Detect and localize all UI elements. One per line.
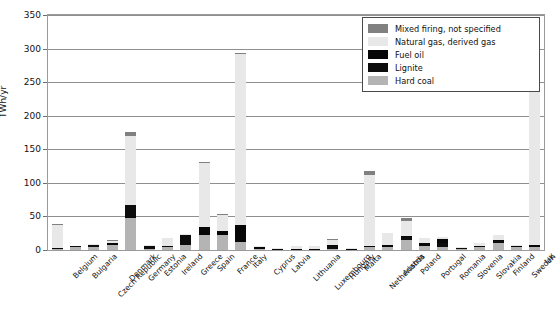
bar-column (419, 238, 430, 250)
bar-segment (346, 249, 357, 250)
bar-column (401, 218, 412, 250)
bar-column (162, 238, 173, 250)
legend-label: Fuel oil (395, 50, 424, 60)
legend-label: Lignite (395, 63, 423, 73)
bar-column (346, 248, 357, 250)
legend-item: Natural gas, derived gas (368, 35, 533, 48)
bar-column (364, 171, 375, 250)
bar-segment (125, 218, 136, 250)
legend-swatch-gas (368, 37, 388, 46)
x-axis-tick-labels: BelgiumBulgariaCzech RepublicDenmarkGerm… (48, 252, 544, 314)
bar-column (382, 233, 393, 250)
bar-segment (474, 247, 485, 250)
bar-column (511, 245, 522, 250)
bar-column (437, 237, 448, 250)
bar-segment (199, 235, 210, 250)
y-axis-tick-label: 200 (24, 111, 41, 121)
bar-segment (235, 225, 246, 242)
legend-label: Natural gas, derived gas (395, 37, 496, 47)
bar-segment (254, 249, 265, 250)
bar-segment (125, 205, 136, 218)
legend-swatch-lignite (368, 63, 388, 72)
bar-segment (217, 235, 228, 250)
y-axis-tick-label: 0 (35, 245, 41, 255)
bar-column (52, 224, 63, 250)
bar-segment (327, 249, 338, 250)
bar-column (88, 244, 99, 250)
bar-segment (364, 247, 375, 250)
bar-segment (52, 225, 63, 248)
bar-segment (180, 245, 191, 250)
bar-segment (456, 249, 467, 250)
y-axis-tick-labels: 050100150200250300350 (0, 14, 45, 251)
bar-column (235, 53, 246, 250)
bar-column (199, 162, 210, 250)
bar-segment (88, 247, 99, 250)
bar-column (493, 235, 504, 250)
bar-segment (437, 247, 448, 250)
bar-segment (419, 246, 430, 250)
bar-segment (70, 247, 81, 250)
bar-segment (162, 238, 173, 247)
bar-segment (401, 240, 412, 250)
bar-segment (162, 247, 173, 250)
y-axis-tick-label: 350 (24, 10, 41, 20)
bar-segment (52, 249, 63, 250)
legend-swatch-mixed (368, 24, 388, 33)
legend-item: Hard coal (368, 74, 533, 87)
bar-segment (401, 221, 412, 236)
y-axis-tick-label: 150 (24, 144, 41, 154)
bar-segment (144, 249, 155, 250)
y-axis-tick-label: 100 (24, 178, 41, 188)
bar-segment (199, 227, 210, 236)
y-axis-tick-label: 300 (24, 44, 41, 54)
legend-label: Hard coal (395, 76, 434, 86)
bar-column (125, 132, 136, 250)
bar-column (107, 240, 118, 250)
bar-segment (199, 163, 210, 226)
bar-column (327, 239, 338, 250)
bar-segment (364, 175, 375, 246)
bar-segment (217, 215, 228, 231)
y-axis-tick-label: 50 (30, 211, 41, 221)
bar-column (474, 243, 485, 250)
legend-item: Lignite (368, 61, 533, 74)
bar-column (180, 234, 191, 250)
bar-segment (125, 136, 136, 205)
bar-segment (235, 242, 246, 250)
bar-segment (309, 249, 320, 250)
bar-segment (107, 245, 118, 250)
bar-column (456, 247, 467, 250)
legend-swatch-hardcoal (368, 76, 388, 85)
bar-segment (382, 247, 393, 250)
legend-label: Mixed firing, not specified (395, 24, 501, 34)
bar-column (291, 246, 302, 250)
bar-column (309, 246, 320, 250)
bar-column (254, 246, 265, 250)
bar-segment (529, 247, 540, 250)
y-axis-tick-label: 250 (24, 77, 41, 87)
bar-segment (272, 249, 283, 250)
legend-item: Fuel oil (368, 48, 533, 61)
bar-segment (235, 54, 246, 225)
bar-column (144, 245, 155, 250)
bar-segment (291, 249, 302, 250)
bar-segment (382, 233, 393, 245)
bar-column (217, 214, 228, 250)
chart-legend: Mixed firing, not specifiedNatural gas, … (362, 17, 540, 92)
bar-segment (511, 247, 522, 250)
legend-swatch-fueloil (368, 50, 388, 59)
bar-column (272, 248, 283, 250)
bar-segment (493, 243, 504, 250)
bar-column (70, 246, 81, 250)
legend-item: Mixed firing, not specified (368, 22, 533, 35)
bar-segment (180, 235, 191, 245)
